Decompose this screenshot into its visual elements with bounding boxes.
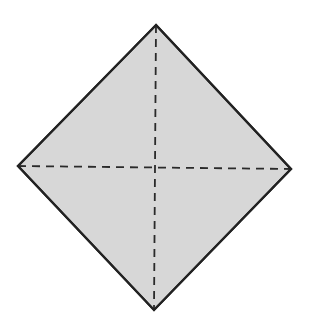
folded-square-diagram: [0, 0, 311, 327]
diagram-canvas: [0, 0, 311, 327]
